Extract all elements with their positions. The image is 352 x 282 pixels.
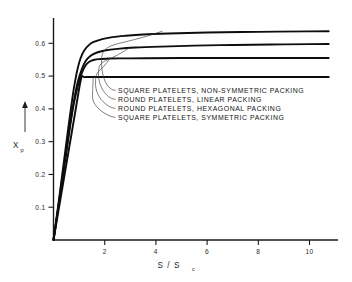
legend-leader-line: [96, 59, 116, 109]
x-axis-title-subscript: c: [192, 266, 195, 272]
legend-leader-line: [102, 31, 163, 90]
y-tick-label: 0.6: [35, 40, 45, 47]
legend-label: SQUARE PLATELETS, SYMMETRIC PACKING: [118, 114, 284, 122]
chart-figure: 0.10.20.30.40.50.6 246810 SQUARE PLATELE…: [0, 0, 352, 282]
axes-group: [54, 18, 339, 240]
data-curve: [54, 31, 329, 240]
x-tick-label: 10: [305, 248, 313, 255]
data-curve: [54, 58, 329, 240]
x-tick-label: 8: [256, 248, 260, 255]
legend-label: SQUARE PLATELETS, NON-SYMMETRIC PACKING: [118, 87, 304, 95]
y-tick-label: 0.5: [35, 72, 45, 79]
y-tick-label: 0.4: [35, 105, 45, 112]
x-axis-title: S / S: [157, 261, 180, 270]
y-axis-ticks: 0.10.20.30.40.50.6: [35, 40, 53, 211]
x-tick-label: 4: [154, 248, 158, 255]
y-axis-title: X: [13, 141, 20, 150]
y-axis-arrow-head: [22, 101, 28, 108]
data-curves-group: [54, 31, 329, 240]
legend-label: ROUND PLATELETS, LINEAR PACKING: [118, 96, 262, 103]
legend-group: SQUARE PLATELETS, NON-SYMMETRIC PACKINGR…: [118, 87, 304, 122]
legend-label: ROUND PLATELETS, HEXAGONAL PACKING: [118, 105, 281, 112]
x-tick-label: 6: [205, 248, 209, 255]
y-tick-label: 0.3: [35, 138, 45, 145]
legend-leader-line: [93, 77, 116, 117]
y-tick-label: 0.2: [35, 171, 45, 178]
data-curve: [54, 44, 329, 240]
y-axis-title-group: X p: [13, 101, 28, 153]
x-tick-label: 2: [103, 248, 107, 255]
x-axis-title-group: S / S c: [157, 261, 195, 272]
y-tick-label: 0.1: [35, 204, 45, 211]
x-axis-ticks: 246810: [103, 240, 314, 255]
chart-svg: 0.10.20.30.40.50.6 246810 SQUARE PLATELE…: [0, 0, 352, 282]
y-axis-title-subscript: p: [21, 147, 24, 153]
